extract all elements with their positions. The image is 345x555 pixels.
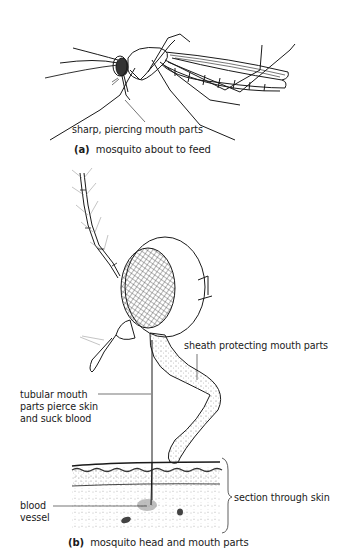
label-blood-line1: blood	[20, 500, 50, 512]
label-blood-vessel: blood vessel	[20, 500, 50, 524]
caption-a-letter: (a)	[74, 144, 90, 155]
label-sheath: sheath protecting mouth parts	[184, 340, 328, 351]
label-tubular-line3: and suck blood	[20, 413, 98, 425]
caption-b: (b) mosquito head and mouth parts	[68, 537, 249, 548]
caption-b-text: mosquito head and mouth parts	[90, 537, 248, 548]
label-tubular-mouth-parts: tubular mouth parts pierce skin and suck…	[20, 389, 98, 425]
caption-a-text: mosquito about to feed	[96, 144, 211, 155]
mosquito-diagram	[0, 0, 345, 555]
label-skin-section: section through skin	[234, 492, 330, 503]
caption-b-letter: (b)	[68, 537, 84, 548]
label-mouth-parts: sharp, piercing mouth parts	[72, 124, 203, 135]
mosquito-head-closeup	[72, 168, 221, 500]
label-tubular-line2: parts pierce skin	[20, 401, 98, 413]
skin-section	[53, 458, 232, 533]
caption-a: (a) mosquito about to feed	[74, 144, 211, 155]
label-blood-line2: vessel	[20, 512, 50, 524]
label-tubular-line1: tubular mouth	[20, 389, 98, 401]
